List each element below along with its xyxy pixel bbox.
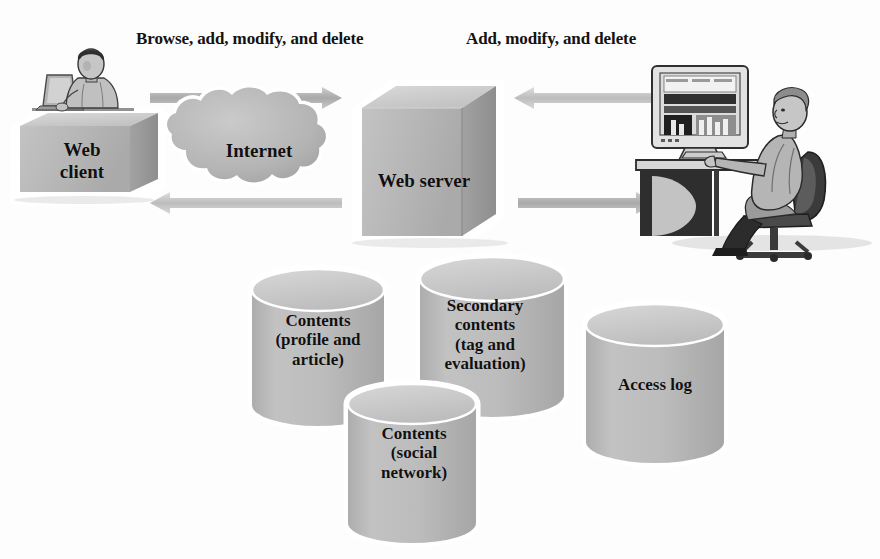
node-label-web-client: Web client — [22, 139, 142, 182]
db-label-contents-profile: Contents (profile and article) — [252, 311, 384, 369]
node-label-web-server: Web server — [360, 170, 488, 192]
icon-person-at-desktop — [636, 66, 872, 262]
db-label-access-log: Access log — [592, 375, 718, 394]
node-web-server — [352, 84, 508, 248]
arrow-admin-to-server — [514, 87, 652, 109]
db-label-secondary-contents: Secondary contents (tag and evaluation) — [424, 296, 546, 374]
flow-label-admin: Add, modify, and delete — [466, 29, 636, 49]
arrow-server-to-admin — [518, 192, 656, 214]
icon-person-at-laptop — [32, 49, 134, 111]
node-label-internet: Internet — [196, 140, 322, 162]
arrow-client-to-server — [150, 87, 342, 109]
diagram-canvas: Browse, add, modify, and delete Add, mod… — [0, 0, 880, 559]
flow-label-browse: Browse, add, modify, and delete — [136, 29, 364, 49]
db-label-contents-social: Contents (social network) — [352, 424, 476, 482]
node-internet-cloud — [167, 88, 326, 183]
arrow-server-to-client — [150, 192, 342, 214]
